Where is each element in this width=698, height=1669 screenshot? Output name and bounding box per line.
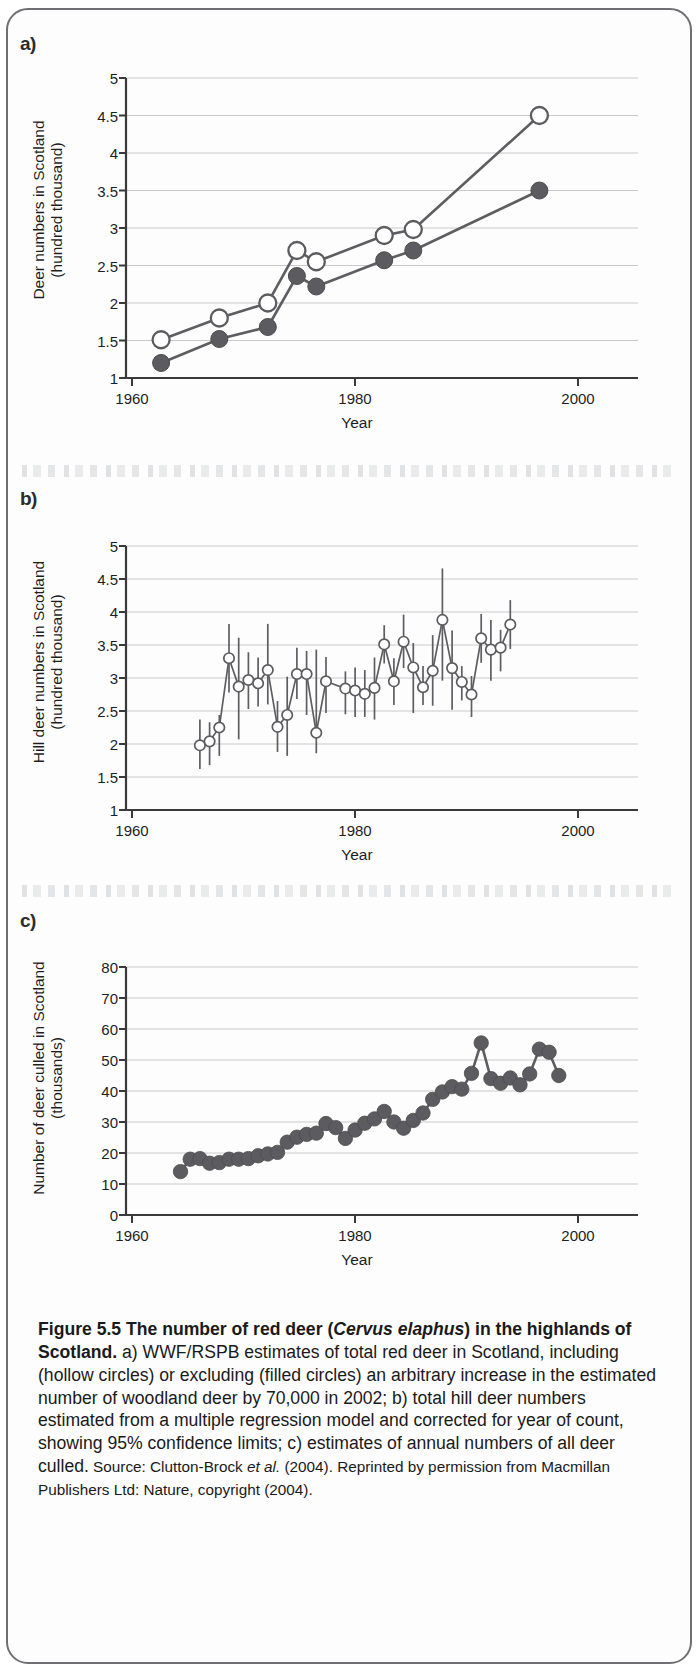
panel-c-xtick-2: 2000 <box>538 1227 618 1244</box>
caption-source-lead: Source: Clutton-Brock <box>89 1458 247 1475</box>
panel-c-marker-38 <box>542 1045 556 1059</box>
panel-b-marker-12 <box>311 728 321 738</box>
panel-c-marker-25 <box>416 1106 430 1120</box>
caption-source-etal: et al. <box>247 1458 280 1475</box>
panel-b-marker-8 <box>272 722 282 732</box>
panel-b-marker-26 <box>457 677 467 687</box>
panel-b-marker-10 <box>292 669 302 679</box>
panel-b-plot <box>8 480 690 880</box>
panel-b-marker-20 <box>398 637 408 647</box>
panel-b-marker-28 <box>476 633 486 643</box>
panel-a-x-axis-label: Year <box>302 414 412 432</box>
panel-a-marker-filled-6 <box>405 242 422 259</box>
panel-b-marker-30 <box>495 642 505 652</box>
panel-a-marker-hollow-7 <box>531 107 548 124</box>
scan-artifact-band-1 <box>22 465 676 477</box>
caption-species-name: Cervus elaphus <box>333 1319 464 1339</box>
panel-b-marker-3 <box>224 653 234 663</box>
panel-b-marker-6 <box>253 678 263 688</box>
figure-caption: Figure 5.5 The number of red deer (Cervu… <box>38 1318 663 1501</box>
caption-body: a) WWF/RSPB estimates of total red deer … <box>38 1342 656 1476</box>
panel-b-marker-5 <box>243 675 253 685</box>
panel-b-marker-11 <box>301 669 311 679</box>
panel-c-marker-39 <box>552 1068 566 1082</box>
panel-a-marker-filled-2 <box>259 319 276 336</box>
panel-b-marker-14 <box>340 683 350 693</box>
panel-c-marker-30 <box>464 1066 478 1080</box>
panel-a-marker-hollow-4 <box>308 253 325 270</box>
panel-a-marker-hollow-2 <box>259 295 276 312</box>
panel-a-xtick-1: 1980 <box>315 390 395 407</box>
panel-c: c) Number of deer culled in Scotland (th… <box>8 900 690 1305</box>
panel-b-xtick-2: 2000 <box>538 822 618 839</box>
panel-b-marker-24 <box>437 615 447 625</box>
panel-b-marker-1 <box>204 736 214 746</box>
panel-b-marker-7 <box>263 665 273 675</box>
panel-b-marker-0 <box>195 740 205 750</box>
panel-a-marker-filled-7 <box>531 182 548 199</box>
panel-a: a) Deer numbers in Scotland (hundred tho… <box>8 10 690 460</box>
panel-a-marker-filled-0 <box>153 355 170 372</box>
panel-b-marker-27 <box>466 689 476 699</box>
panel-b-xtick-1: 1980 <box>315 822 395 839</box>
panel-b-marker-22 <box>418 682 428 692</box>
caption-bold-lead: Figure 5.5 The number of red deer ( <box>38 1319 333 1339</box>
panel-a-marker-hollow-1 <box>211 310 228 327</box>
figure-page: a) Deer numbers in Scotland (hundred tho… <box>6 8 692 1664</box>
panel-b-marker-25 <box>447 663 457 673</box>
panel-b-marker-18 <box>379 639 389 649</box>
panel-a-marker-hollow-6 <box>405 221 422 238</box>
panel-b-marker-4 <box>234 681 244 691</box>
panel-a-marker-hollow-3 <box>288 242 305 259</box>
panel-c-xtick-0: 1960 <box>92 1227 172 1244</box>
panel-b-marker-23 <box>428 666 438 676</box>
panel-b-marker-16 <box>360 689 370 699</box>
panel-b-marker-2 <box>214 722 224 732</box>
panel-b-x-axis-label: Year <box>302 846 412 864</box>
panel-c-marker-0 <box>173 1164 187 1178</box>
panel-b-marker-31 <box>505 619 515 629</box>
panel-a-marker-hollow-0 <box>153 331 170 348</box>
panel-c-x-axis-label: Year <box>302 1251 412 1269</box>
panel-a-marker-filled-3 <box>288 268 305 285</box>
panel-b-marker-17 <box>369 683 379 693</box>
panel-b-marker-15 <box>350 685 360 695</box>
panel-c-marker-31 <box>474 1036 488 1050</box>
panel-b-marker-9 <box>282 710 292 720</box>
scan-artifact-band-2 <box>22 885 676 897</box>
panel-a-xtick-0: 1960 <box>92 390 172 407</box>
panel-b-marker-29 <box>486 644 496 654</box>
panel-c-plot <box>8 900 690 1305</box>
panel-a-marker-filled-1 <box>211 331 228 348</box>
panel-a-marker-hollow-5 <box>376 227 393 244</box>
panel-c-marker-29 <box>455 1082 469 1096</box>
panel-b-marker-19 <box>389 676 399 686</box>
panel-b: b) Hill deer numbers in Scotland (hundre… <box>8 480 690 880</box>
panel-a-marker-filled-5 <box>376 252 393 269</box>
panel-c-marker-36 <box>523 1067 537 1081</box>
panel-a-marker-filled-4 <box>308 278 325 295</box>
panel-b-marker-21 <box>408 662 418 672</box>
panel-a-xtick-2: 2000 <box>538 390 618 407</box>
panel-b-xtick-0: 1960 <box>92 822 172 839</box>
panel-c-xtick-1: 1980 <box>315 1227 395 1244</box>
panel-b-marker-13 <box>321 676 331 686</box>
